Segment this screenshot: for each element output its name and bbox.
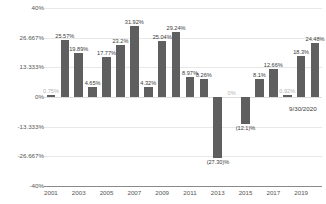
bar-value-label: 23.2% — [109, 38, 131, 44]
x-axis-tick-label: 2005 — [94, 189, 120, 196]
bar — [116, 45, 125, 97]
bar — [74, 53, 83, 97]
bar — [186, 77, 195, 97]
bar-value-label: 25.57% — [54, 33, 76, 39]
bar-value-label: 18.3% — [290, 49, 312, 55]
x-axis-tick-label: 2003 — [66, 189, 92, 196]
zero-gridline — [44, 97, 322, 98]
y-axis-tick-label: 26.667% — [0, 35, 44, 41]
y-axis-tick-label: 0% — [0, 94, 44, 100]
y-axis-tick-label: -26.667% — [0, 153, 44, 159]
x-axis-tick-label: 2007 — [121, 189, 147, 196]
x-axis-tick-label: 2001 — [38, 189, 64, 196]
bar-value-label: 17.77% — [95, 50, 117, 56]
gridline — [44, 156, 322, 157]
date-annotation: 9/30/2020 — [289, 105, 317, 112]
gridline — [44, 127, 322, 128]
bar-value-label: 29.24% — [165, 25, 187, 31]
bar-value-label: 8.26% — [193, 72, 215, 78]
bar — [158, 41, 167, 97]
x-axis-tick-label: 2015 — [233, 189, 259, 196]
bar — [311, 43, 320, 97]
bar-value-label: 25.04% — [151, 34, 173, 40]
x-axis-tick-label: 2013 — [205, 189, 231, 196]
bar — [88, 87, 97, 97]
y-axis-tick-label: 40% — [0, 5, 44, 11]
bar-chart: 0.75%25.57%19.89%4.65%17.77%23.2%31.92%4… — [0, 0, 326, 204]
bar — [213, 97, 222, 158]
bar-value-label: 8.1% — [248, 72, 270, 78]
bar-value-label: 24.48% — [304, 36, 326, 42]
y-axis-tick-label: -13.333% — [0, 124, 44, 130]
bar — [283, 95, 292, 97]
bar — [47, 95, 56, 97]
gridline — [44, 38, 322, 39]
y-axis-tick-label: 13.333% — [0, 64, 44, 70]
x-axis-tick-label: 2011 — [177, 189, 203, 196]
bar — [200, 79, 209, 97]
bar — [172, 32, 181, 97]
bar-value-label: 19.89% — [68, 46, 90, 52]
bar-value-label: 0.92% — [276, 88, 298, 94]
bar — [144, 87, 153, 97]
x-axis-tick-label: 2017 — [260, 189, 286, 196]
bar-value-label: 4.32% — [137, 80, 159, 86]
bar-value-label: 12.66% — [262, 62, 284, 68]
bar-value-label: 0% — [221, 90, 243, 96]
x-axis-tick-label: 2009 — [149, 189, 175, 196]
bar — [297, 56, 306, 97]
bar-value-label: 4.65% — [82, 80, 104, 86]
bar — [255, 79, 264, 97]
plot-area: 0.75%25.57%19.89%4.65%17.77%23.2%31.92%4… — [44, 8, 322, 186]
bar — [241, 97, 250, 124]
bar — [102, 57, 111, 97]
gridline — [44, 8, 322, 9]
bar-value-label: (12.1)% — [234, 125, 256, 131]
bar-value-label: (27.30)% — [207, 159, 229, 165]
bar-value-label: 31.92% — [123, 19, 145, 25]
x-axis-line — [44, 186, 322, 187]
x-axis-tick-label: 2019 — [288, 189, 314, 196]
